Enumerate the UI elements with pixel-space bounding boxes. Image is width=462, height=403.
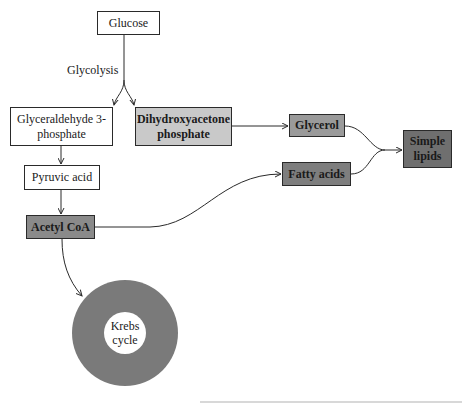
lipid-biosynthesis-diagram: Glucose Glycolysis Glyceraldehyde 3- pho… bbox=[0, 0, 462, 403]
node-pyruvic-label: Pyruvic acid bbox=[32, 170, 92, 185]
edge-fatty-lipids bbox=[351, 150, 385, 174]
node-glycerol-label: Glycerol bbox=[295, 118, 339, 133]
edge-glucose-dhap bbox=[124, 80, 134, 105]
node-g3p-line2: phosphate bbox=[37, 127, 86, 142]
node-fatty-label: Fatty acids bbox=[288, 167, 344, 182]
krebs-cycle-center: Krebs cycle bbox=[104, 312, 146, 354]
node-acetyl-coa: Acetyl CoA bbox=[26, 215, 95, 239]
node-acetyl-label: Acetyl CoA bbox=[31, 220, 90, 235]
edge-glucose-g3p bbox=[114, 80, 124, 105]
krebs-cycle-ring: Krebs cycle bbox=[72, 280, 178, 386]
node-glyceraldehyde-3-phosphate: Glyceraldehyde 3- phosphate bbox=[10, 107, 113, 146]
node-fatty-acids: Fatty acids bbox=[282, 162, 351, 186]
krebs-line1: Krebs bbox=[111, 319, 140, 333]
node-dhap-line1: Dihydroxyacetone bbox=[137, 112, 230, 127]
node-simple-lipids: Simple lipids bbox=[403, 130, 452, 168]
edge-label-glycolysis: Glycolysis bbox=[67, 63, 118, 78]
krebs-line2: cycle bbox=[112, 333, 137, 347]
connector-lines bbox=[0, 0, 462, 403]
node-lipids-line2: lipids bbox=[413, 149, 441, 164]
node-glucose-label: Glucose bbox=[109, 16, 148, 31]
node-glucose: Glucose bbox=[97, 11, 160, 35]
node-dhap-line2: phosphate bbox=[157, 127, 210, 142]
edge-glycerol-lipids bbox=[345, 126, 385, 150]
node-pyruvic-acid: Pyruvic acid bbox=[24, 165, 100, 190]
edge-acetyl-krebs bbox=[62, 239, 82, 296]
node-dihydroxyacetone-phosphate: Dihydroxyacetone phosphate bbox=[135, 107, 232, 146]
edge-acetyl-fatty bbox=[95, 174, 281, 227]
node-lipids-line1: Simple bbox=[410, 134, 445, 149]
node-g3p-line1: Glyceraldehyde 3- bbox=[17, 112, 106, 127]
node-glycerol: Glycerol bbox=[289, 114, 345, 137]
